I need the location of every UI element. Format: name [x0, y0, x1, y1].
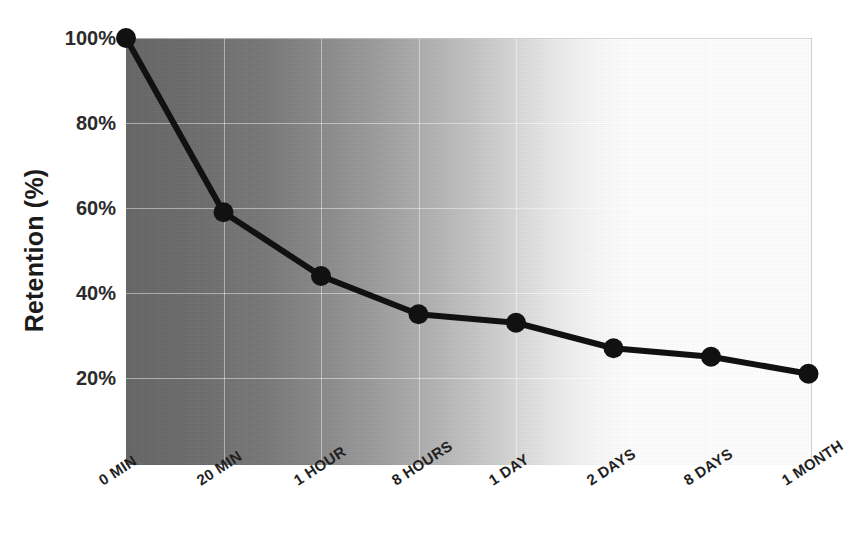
data-point-marker[interactable] — [506, 313, 526, 333]
y-axis-tick-labels: 20%40%60%80%100% — [8, 38, 116, 465]
retention-markers — [116, 28, 819, 384]
data-point-marker[interactable] — [214, 202, 234, 222]
y-axis-tick-label: 80% — [16, 112, 116, 135]
y-axis-tick-label: 60% — [16, 197, 116, 220]
data-point-marker[interactable] — [116, 28, 136, 48]
retention-line-series — [126, 38, 812, 465]
data-point-marker[interactable] — [604, 338, 624, 358]
data-point-marker[interactable] — [799, 364, 819, 384]
y-axis-tick-label: 20% — [16, 367, 116, 390]
data-point-marker[interactable] — [409, 304, 429, 324]
data-point-marker[interactable] — [311, 266, 331, 286]
y-axis-tick-label: 100% — [16, 27, 116, 50]
x-axis-tick-labels: 0 MIN20 MIN1 HOUR8 HOURS1 DAY2 DAYS8 DAY… — [126, 465, 812, 555]
y-axis-tick-label: 40% — [16, 282, 116, 305]
data-point-marker[interactable] — [701, 347, 721, 367]
chart-canvas: Retention (%) 20%40%60%80%100% 0 MIN20 M… — [0, 0, 846, 555]
plot-area — [126, 38, 812, 465]
